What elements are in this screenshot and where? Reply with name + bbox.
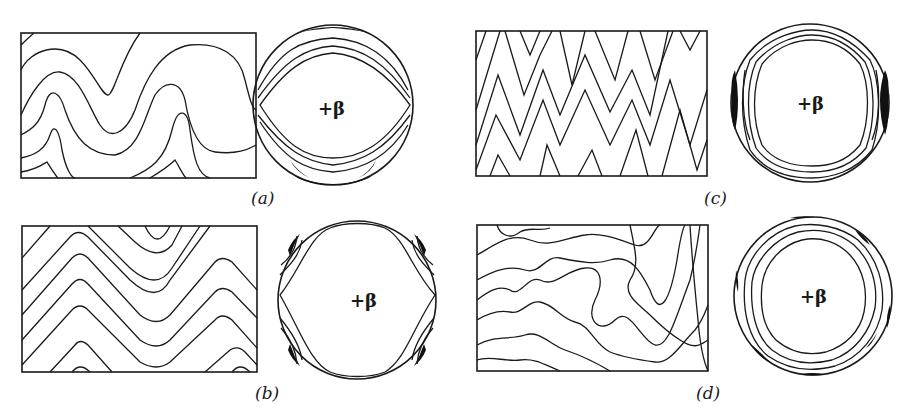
- fold-line: [477, 334, 610, 371]
- density-maximum: [855, 230, 870, 245]
- fold-line: [578, 150, 602, 176]
- fold-line: [21, 84, 256, 155]
- fold-line: [640, 31, 673, 80]
- pole-label-beta: +β: [800, 286, 827, 307]
- panel-d-frame: [477, 225, 708, 371]
- fold-line: [88, 226, 200, 280]
- density-maximum: [295, 176, 372, 185]
- fold-line: [560, 31, 585, 85]
- density-maximum: [887, 305, 890, 328]
- panel-b-fold-profile: [22, 226, 257, 372]
- fold-line: [21, 45, 256, 134]
- fold-line: [490, 155, 510, 176]
- panel-label-a: (a): [251, 188, 274, 208]
- fold-line: [477, 225, 700, 345]
- panel-label-b: (b): [255, 383, 279, 403]
- fold-line: [145, 226, 170, 239]
- contour-line: [258, 46, 410, 98]
- fold-line: [118, 226, 182, 253]
- pole-label-beta: +β: [350, 290, 377, 311]
- fold-line: [21, 162, 58, 178]
- fold-line: [595, 31, 628, 80]
- fold-line: [680, 31, 700, 50]
- fold-line: [476, 31, 668, 145]
- density-maximum: [731, 70, 738, 130]
- panel-label-d: (d): [696, 383, 720, 403]
- panel-d-fold-profile: [477, 225, 708, 371]
- fold-line: [21, 33, 34, 45]
- density-maximum: [295, 27, 372, 34]
- panel-label-c: (c): [704, 188, 727, 208]
- fold-line: [497, 225, 550, 236]
- density-maximum: [880, 70, 889, 135]
- density-maximum: [752, 345, 770, 362]
- fold-line: [21, 33, 140, 95]
- figure-canvas: +β +β: [0, 0, 904, 419]
- panel-c-fold-profile: [476, 31, 707, 176]
- fold-line: [476, 31, 552, 110]
- fold-line: [205, 348, 257, 372]
- density-maximum: [358, 160, 376, 178]
- panel-a-frame: [21, 33, 256, 178]
- fold-line: [476, 31, 486, 60]
- fold-line: [22, 280, 257, 347]
- panel-d-stereonet: +β: [734, 216, 892, 375]
- panel-a-fold-profile: [21, 33, 256, 178]
- fold-line: [620, 130, 648, 176]
- pole-label-beta: +β: [797, 93, 824, 114]
- fold-line: [130, 113, 210, 178]
- fold-line: [477, 225, 685, 304]
- panel-c-stereonet: +β: [731, 24, 889, 182]
- fold-line: [540, 145, 560, 176]
- fold-line: [477, 302, 708, 362]
- pole-label-beta: +β: [318, 98, 345, 119]
- panel-b-stereonet: +β: [278, 221, 436, 379]
- panel-a-stereonet: +β: [253, 25, 413, 185]
- fold-line: [477, 358, 560, 371]
- fold-line: [662, 110, 707, 176]
- fold-line: [690, 225, 708, 371]
- fold-line: [22, 226, 50, 258]
- fold-line: [520, 31, 540, 55]
- panel-b-frame: [22, 226, 257, 372]
- fold-line: [476, 80, 707, 170]
